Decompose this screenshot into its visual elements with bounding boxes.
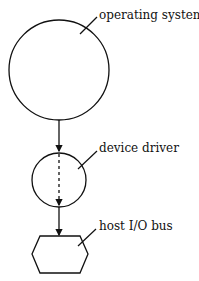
- host-io-bus-node: [32, 229, 96, 273]
- operating-system-node: [9, 17, 109, 120]
- driver-leader-line: [78, 151, 97, 169]
- device-driver-node: [32, 151, 97, 207]
- operating-system-label: operating system: [99, 8, 199, 22]
- host-io-bus-label: host I/O bus: [99, 219, 173, 233]
- device-driver-label: device driver: [99, 141, 179, 155]
